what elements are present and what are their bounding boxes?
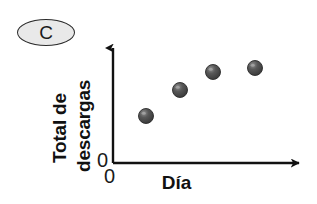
scatter-plot-area	[0, 0, 317, 204]
data-point-highlight	[209, 68, 213, 71]
data-point-marker	[173, 83, 188, 98]
data-point-highlight	[251, 64, 255, 67]
data-point-highlight	[176, 86, 180, 89]
data-point-marker	[139, 109, 154, 124]
data-point-marker	[248, 61, 263, 76]
data-point-group	[139, 61, 263, 124]
data-point-marker	[206, 65, 221, 80]
figure-panel-c: C Total de descargas Día 0 0	[0, 0, 317, 204]
data-point-highlight	[142, 112, 146, 115]
